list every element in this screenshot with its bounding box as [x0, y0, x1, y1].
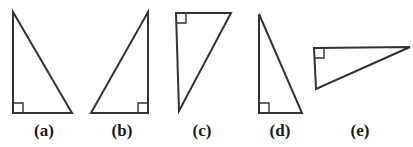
figure-container: (a) (b) (c) (d) (e): [0, 0, 413, 147]
triangles-diagram: [0, 0, 413, 147]
